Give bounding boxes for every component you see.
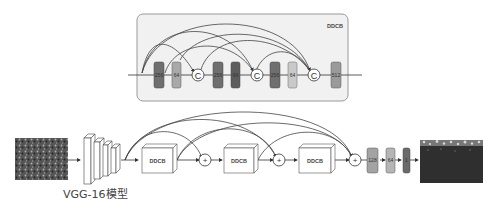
ddcb-block: DDCB [224,144,258,173]
svg-text:DDCB: DDCB [231,158,247,164]
svg-text:64: 64 [174,72,180,78]
svg-text:C: C [254,71,261,81]
sum-node: + [199,154,211,166]
svg-text:DDCB: DDCB [307,158,323,164]
ddcb-layer: 64 [172,62,181,88]
ddcb-layer: 256 [270,62,280,88]
ddcb-detail-panel: DDCB 256 64 C 256 [128,14,362,101]
output-density-map [420,140,483,183]
ddcb-layer: 256 [213,62,223,88]
svg-text:256: 256 [271,72,280,78]
svg-text:256: 256 [214,72,223,78]
head-layer: 1 [403,148,410,173]
svg-text:512: 512 [332,72,341,78]
input-crowd-image [15,138,68,180]
head-layer: 128 [367,148,378,173]
svg-text:1: 1 [405,157,408,163]
svg-text:+: + [353,156,358,165]
concat-node: C [192,69,204,81]
ddcb-panel-title: DDCB [327,23,343,29]
backbone-label: VGG-16模型 [63,187,128,201]
concat-node: C [308,69,320,81]
svg-text:64: 64 [233,72,239,78]
svg-text:64: 64 [388,157,394,163]
head-layer: 64 [386,148,395,173]
concat-node: C [251,69,263,81]
ddcb-layer: 512 [331,62,341,88]
sum-node: + [273,154,285,166]
sum-node: + [349,154,361,166]
svg-text:+: + [277,156,282,165]
svg-text:DDCB: DDCB [150,158,166,164]
ddcb-layer: 64 [231,62,240,88]
svg-text:128: 128 [368,157,377,163]
pipeline: VGG-16模型 DDCB [15,112,483,201]
architecture-diagram: DDCB 256 64 C 256 [0,0,486,211]
ddcb-layer: 64 [288,62,297,88]
ddcb-layer: 256 [154,62,164,88]
svg-text:64: 64 [290,72,296,78]
svg-text:256: 256 [155,72,164,78]
vgg16-backbone [84,134,120,184]
svg-text:+: + [203,156,208,165]
svg-text:C: C [311,71,318,81]
svg-text:C: C [195,71,202,81]
ddcb-block: DDCB [142,144,177,173]
ddcb-block: DDCB [299,144,335,173]
